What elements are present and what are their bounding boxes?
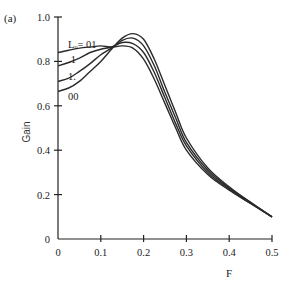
x-tick-label: 0 xyxy=(55,247,60,258)
x-tick-label: 0.1 xyxy=(94,247,107,258)
gain-vs-f-chart: (a) 00.20.40.60.81.0 00.10.20.30.40.5 Lₒ… xyxy=(0,0,290,289)
y-axis-label: Gain xyxy=(21,121,32,142)
y-tick-label: 0.2 xyxy=(37,190,50,201)
y-tick-label: 0 xyxy=(45,234,50,245)
x-axis-label: F xyxy=(226,267,232,279)
y-tick-label: 1.0 xyxy=(37,12,50,23)
series-labels: Lₒ=.01.11.00 xyxy=(68,39,97,102)
curve--1 xyxy=(58,42,272,217)
series-label: 00 xyxy=(68,91,79,102)
y-tick-label: 0.8 xyxy=(37,56,50,67)
y-tick-label: 0.6 xyxy=(37,101,50,112)
series-label: .1 xyxy=(68,54,76,65)
curve-1- xyxy=(58,38,272,217)
curve-group xyxy=(58,34,272,217)
series-label: Lₒ=.01 xyxy=(68,39,97,50)
panel-label: (a) xyxy=(4,12,17,25)
x-tick-label: 0.3 xyxy=(180,247,193,258)
x-tick-label: 0.4 xyxy=(223,247,237,258)
x-tick-label: 0.5 xyxy=(265,247,278,258)
x-tick-label: 0.2 xyxy=(137,247,150,258)
curve-00 xyxy=(58,34,272,217)
y-tick-label: 0.4 xyxy=(37,145,51,156)
series-label: 1. xyxy=(68,71,76,82)
